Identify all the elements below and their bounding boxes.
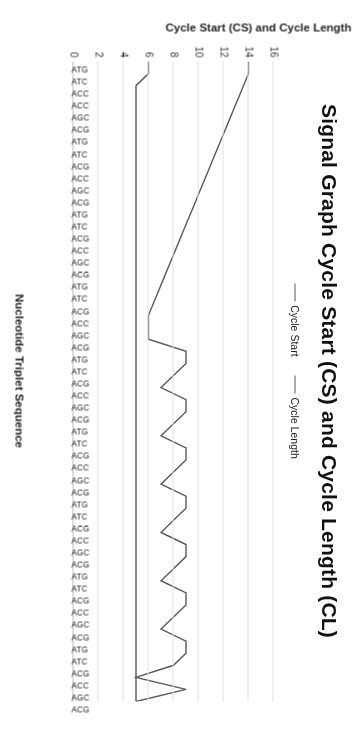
x-tick-48: ATG — [72, 646, 89, 655]
x-tick-18: ATG — [72, 283, 89, 292]
x-tick-40: AGC — [72, 549, 90, 558]
x-tick-31: ATC — [72, 440, 88, 449]
plot-area: 0246810121416 — [74, 62, 274, 702]
x-tick-7: ATC — [72, 151, 88, 160]
x-tick-30: ATG — [72, 428, 89, 437]
legend-label-cycle-start: Cycle Start — [290, 306, 302, 357]
x-tick-15: ACC — [72, 247, 90, 256]
x-tick-52: AGC — [72, 694, 90, 703]
x-tick-21: ACC — [72, 320, 90, 329]
x-tick-24: ATG — [72, 356, 89, 365]
x-tick-41: ACG — [72, 561, 90, 570]
x-tick-27: ACC — [72, 392, 90, 401]
legend-swatch-cycle-start — [295, 284, 296, 302]
x-tick-0: ATG — [72, 66, 89, 75]
x-tick-8: ACG — [72, 163, 90, 172]
x-tick-9: ACC — [72, 175, 90, 184]
legend-label-cycle-length: Cycle Length — [290, 398, 302, 459]
x-tick-44: ACG — [72, 597, 90, 606]
x-tick-2: ACC — [72, 90, 90, 99]
x-tick-26: ACG — [72, 380, 90, 389]
series-line-cycle-length — [137, 62, 250, 702]
rotated-figure-wrapper: Signal Graph Cycle Start (CS) and Cycle … — [0, 0, 352, 743]
x-tick-17: ACG — [72, 271, 90, 280]
x-tick-20: ACG — [72, 308, 90, 317]
x-tick-1: ATC — [72, 78, 88, 87]
x-tick-43: ATC — [72, 585, 88, 594]
x-tick-4: AGC — [72, 114, 90, 123]
x-tick-38: ACG — [72, 525, 90, 534]
chart-title: Signal Graph Cycle Start (CS) and Cycle … — [318, 0, 342, 743]
x-tick-33: ACC — [72, 464, 90, 473]
y-tick-0: 0 — [69, 18, 80, 58]
x-tick-14: ACG — [72, 235, 90, 244]
y-tick-4: 4 — [119, 18, 130, 58]
x-tick-10: AGC — [72, 187, 90, 196]
y-tick-6: 6 — [144, 18, 155, 58]
x-tick-46: AGC — [72, 621, 90, 630]
x-tick-12: ATG — [72, 211, 89, 220]
x-tick-51: ACC — [72, 682, 90, 691]
legend-item-cycle-length[interactable]: Cycle Length — [290, 376, 302, 459]
x-tick-11: ACG — [72, 199, 90, 208]
x-tick-19: ATC — [72, 295, 88, 304]
x-tick-53: ACG — [72, 706, 90, 715]
y-axis-label: Cycle Start (CS) and Cycle Length (CL) — [166, 22, 352, 34]
x-tick-36: ATG — [72, 501, 89, 510]
x-tick-45: ACC — [72, 609, 90, 618]
x-tick-25: ATC — [72, 368, 88, 377]
x-tick-22: AGC — [72, 332, 90, 341]
x-tick-49: ATC — [72, 658, 88, 667]
legend-item-cycle-start[interactable]: Cycle Start — [290, 284, 302, 357]
y-tick-2: 2 — [94, 18, 105, 58]
x-tick-16: AGC — [72, 259, 90, 268]
x-tick-23: ACG — [72, 344, 90, 353]
x-tick-42: ATG — [72, 573, 89, 582]
x-tick-32: ACG — [72, 452, 90, 461]
x-tick-28: AGC — [72, 404, 90, 413]
x-tick-39: ACC — [72, 537, 90, 546]
x-tick-5: ACG — [72, 126, 90, 135]
x-tick-6: ATG — [72, 138, 89, 147]
x-tick-47: ACG — [72, 634, 90, 643]
x-tick-34: AGC — [72, 477, 90, 486]
chart-legend: Cycle Start Cycle Length — [290, 0, 302, 743]
x-tick-37: ATC — [72, 513, 88, 522]
gridline-16 — [273, 62, 274, 702]
x-tick-50: ACG — [72, 670, 90, 679]
legend-swatch-cycle-length — [295, 376, 296, 394]
chart-figure: Signal Graph Cycle Start (CS) and Cycle … — [0, 0, 352, 743]
x-tick-13: ATC — [72, 223, 88, 232]
x-tick-35: ACG — [72, 489, 90, 498]
x-tick-29: ACG — [72, 416, 90, 425]
x-axis-label: Nucleotide Triplet Sequence — [14, 0, 26, 743]
chart-svg — [74, 62, 274, 702]
x-tick-3: ACC — [72, 102, 90, 111]
